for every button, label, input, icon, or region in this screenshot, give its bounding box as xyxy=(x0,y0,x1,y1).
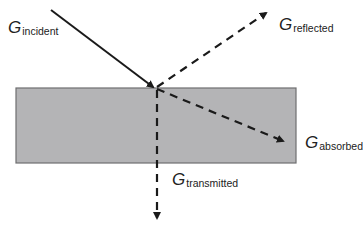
label-reflected: Greflected xyxy=(279,15,334,35)
symbol-g: G xyxy=(305,133,318,152)
label-incident: Gincident xyxy=(8,18,58,38)
incident-arrow xyxy=(51,10,153,87)
subscript-reflected: reflected xyxy=(293,22,333,34)
label-transmitted: Gtransmitted xyxy=(172,170,238,190)
symbol-g: G xyxy=(279,15,292,34)
reflected-arrow xyxy=(157,13,266,87)
symbol-g: G xyxy=(172,170,185,189)
label-absorbed: Gabsorbed xyxy=(305,133,363,153)
subscript-transmitted: transmitted xyxy=(186,177,238,189)
symbol-g: G xyxy=(8,18,21,37)
subscript-incident: incident xyxy=(22,25,58,37)
subscript-absorbed: absorbed xyxy=(319,140,363,152)
